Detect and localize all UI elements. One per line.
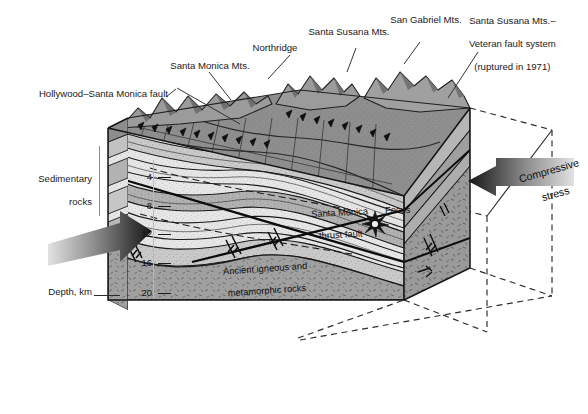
depth-tick-20: 20 [131, 287, 152, 298]
label-ancient-basement-rocks: Ancient igneous and metamorphic rocks [194, 249, 328, 313]
label-northridge: Northridge [232, 42, 318, 53]
depth-tick-4: 4 [136, 171, 152, 182]
thrust-fault-line-2: thrust fault [319, 229, 363, 241]
label-depth-axis: Depth, km [14, 286, 92, 297]
veteran-fault-line-1: Santa Susana Mts.– [469, 15, 555, 26]
depth-axis-leader [94, 295, 120, 296]
basement-line-2: metamorphic rocks [227, 283, 306, 298]
depth-tick-16: 16 [131, 257, 152, 268]
depth-tick-mark-16 [158, 263, 171, 264]
label-focus: Focus [385, 205, 431, 216]
depth-tick-mark-4 [158, 177, 171, 178]
sedimentary-line-1: Sedimentary [38, 173, 92, 184]
label-sedimentary-rocks: Sedimentary rocks [12, 162, 92, 219]
veteran-fault-line-2: Veteran fault system [469, 38, 556, 49]
compressive-stress-line-1: Compressive [517, 156, 580, 185]
depth-tick-12: 12 [131, 228, 152, 239]
left-face [108, 118, 128, 310]
sedimentary-line-2: rocks [69, 196, 92, 207]
compressive-stress-line-2: stress [540, 184, 570, 203]
label-santa-susana-mts: Santa Susana Mts. [286, 26, 412, 37]
depth-tick-mark-12 [158, 234, 171, 235]
depth-tick-mark-20 [158, 293, 171, 294]
label-veteran-fault-system: Santa Susana Mts.– Veteran fault system … [432, 4, 582, 84]
depth-axis-line [153, 160, 154, 298]
label-hollywood-santa-monica-fault: Hollywood–Santa Monica fault [6, 88, 168, 99]
label-santa-monica-mts: Santa Monica Mts. [140, 60, 280, 71]
depth-tick-mark-8 [158, 206, 171, 207]
thrust-fault-line-1: Santa Monica [311, 206, 368, 219]
basement-line-1: Ancient igneous and [223, 261, 308, 277]
figure-canvas: Hollywood–Santa Monica fault Santa Monic… [0, 0, 588, 414]
depth-tick-8: 8 [136, 200, 152, 211]
veteran-fault-line-3: (ruptured in 1971) [474, 61, 550, 72]
sedimentary-bracket [99, 146, 100, 216]
label-santa-monica-thrust-fault: Santa Monica thrust fault [294, 195, 377, 254]
